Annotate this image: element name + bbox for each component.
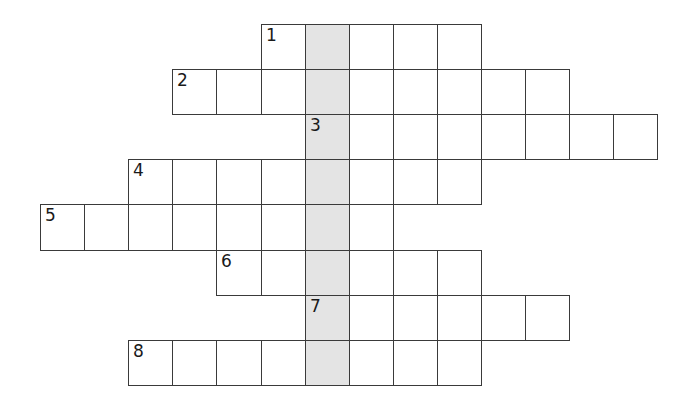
- crossword-cell-highlighted[interactable]: [305, 204, 350, 251]
- crossword-cell[interactable]: [393, 340, 438, 386]
- crossword-cell[interactable]: [437, 295, 482, 341]
- crossword-cell[interactable]: [349, 295, 394, 341]
- crossword-cell[interactable]: [349, 114, 394, 160]
- crossword-cell-highlighted[interactable]: [305, 24, 350, 70]
- crossword-cell[interactable]: [349, 159, 394, 205]
- crossword-cell[interactable]: [261, 204, 306, 251]
- clue-number: 5: [45, 207, 56, 224]
- crossword-cell-highlighted[interactable]: [305, 340, 350, 386]
- crossword-cell[interactable]: [393, 159, 438, 205]
- crossword-cell[interactable]: [261, 69, 306, 115]
- crossword-cell[interactable]: 1: [261, 24, 306, 70]
- crossword-cell[interactable]: [437, 159, 482, 205]
- clue-number: 3: [310, 117, 321, 134]
- crossword-cell[interactable]: 2: [172, 69, 217, 115]
- crossword-cell[interactable]: [437, 114, 482, 160]
- crossword-cell[interactable]: [393, 295, 438, 341]
- crossword-cell[interactable]: [128, 204, 173, 251]
- crossword-cell[interactable]: [261, 159, 306, 205]
- crossword-cell-highlighted[interactable]: [305, 69, 350, 115]
- crossword-cell[interactable]: [393, 114, 438, 160]
- crossword-cell[interactable]: [437, 24, 482, 70]
- crossword-cell[interactable]: [437, 250, 482, 296]
- crossword-cell[interactable]: [172, 340, 217, 386]
- crossword-cell[interactable]: [481, 69, 526, 115]
- crossword-cell[interactable]: [261, 340, 306, 386]
- crossword-cell-highlighted[interactable]: 7: [305, 295, 350, 341]
- crossword-cell[interactable]: [172, 159, 217, 205]
- crossword-cell-highlighted[interactable]: [305, 250, 350, 296]
- crossword-cell[interactable]: [525, 69, 570, 115]
- crossword-cell[interactable]: [393, 250, 438, 296]
- crossword-cell-highlighted[interactable]: 3: [305, 114, 350, 160]
- crossword-cell[interactable]: [437, 340, 482, 386]
- crossword-cell[interactable]: 5: [40, 204, 85, 251]
- crossword-cell[interactable]: [613, 114, 658, 160]
- crossword-cell[interactable]: [481, 114, 526, 160]
- crossword-cell[interactable]: [216, 340, 262, 386]
- crossword-cell[interactable]: [216, 159, 262, 205]
- crossword-cell[interactable]: 4: [128, 159, 173, 205]
- clue-number: 2: [177, 72, 188, 89]
- crossword-cell[interactable]: [216, 69, 262, 115]
- crossword-cell[interactable]: [525, 114, 570, 160]
- crossword-cell[interactable]: [349, 204, 394, 251]
- crossword-cell-highlighted[interactable]: [305, 159, 350, 205]
- crossword-cell[interactable]: [261, 250, 306, 296]
- clue-number: 1: [266, 27, 277, 44]
- crossword-cell[interactable]: [393, 69, 438, 115]
- crossword-cell[interactable]: [393, 24, 438, 70]
- crossword-cell[interactable]: [569, 114, 614, 160]
- crossword-cell[interactable]: [216, 204, 262, 251]
- clue-number: 7: [310, 298, 321, 315]
- crossword-cell[interactable]: 8: [128, 340, 173, 386]
- crossword-grid: 12345678: [0, 0, 690, 409]
- crossword-cell[interactable]: [349, 340, 394, 386]
- crossword-cell[interactable]: [172, 204, 217, 251]
- crossword-cell[interactable]: 6: [216, 250, 262, 296]
- crossword-cell[interactable]: [481, 295, 526, 341]
- crossword-cell[interactable]: [349, 69, 394, 115]
- crossword-cell[interactable]: [437, 69, 482, 115]
- crossword-cell[interactable]: [349, 250, 394, 296]
- clue-number: 6: [221, 253, 232, 270]
- clue-number: 4: [133, 162, 144, 179]
- crossword-cell[interactable]: [349, 24, 394, 70]
- clue-number: 8: [133, 343, 144, 360]
- crossword-cell[interactable]: [525, 295, 570, 341]
- crossword-cell[interactable]: [84, 204, 129, 251]
